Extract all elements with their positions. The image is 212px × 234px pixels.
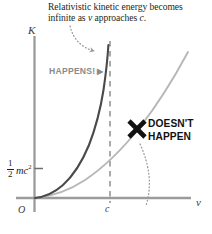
figure-relativistic-kinetic-energy: Relativistic kinetic energy becomes infi…	[0, 0, 212, 234]
figure-caption-line-1: Relativistic kinetic energy becomes	[48, 1, 183, 12]
origin-label: O	[18, 204, 25, 215]
pointer-arrow-to-classical-curve	[140, 144, 149, 206]
annotation-doesnt-line-1: DOESN'T	[148, 118, 194, 131]
caption-text-pre: infinite as	[48, 12, 88, 23]
mc-squared-symbol: mc2	[16, 163, 32, 176]
right-triangle-arrow-icon: ▶	[97, 67, 103, 76]
y-axis-tick-label: 1 2 mc2	[7, 155, 51, 183]
y-axis-label: K	[28, 24, 35, 36]
annotation-doesnt-line-2: HAPPEN	[148, 131, 194, 144]
fraction-denominator: 2	[7, 170, 14, 179]
mc-base: mc	[16, 164, 28, 175]
fraction-numerator: 1	[7, 159, 14, 168]
annotation-happens-label: HAPPENS!	[49, 66, 95, 76]
fraction-one-half: 1 2	[7, 159, 14, 179]
annotation-doesnt-happen: DOESN'T HAPPEN	[148, 118, 194, 143]
annotation-happens: HAPPENS!▶	[49, 66, 104, 76]
x-axis-label: v	[196, 196, 201, 208]
x-mark-icon	[129, 121, 145, 137]
x-axis-tick-label-c: c	[105, 203, 109, 214]
figure-caption-line-2: infinite as v approaches c.	[48, 12, 146, 23]
mc-exponent: 2	[28, 163, 31, 170]
caption-text-end: .	[144, 12, 146, 23]
caption-text-mid: approaches	[92, 12, 139, 23]
pointer-arrow-to-relativistic-curve	[70, 26, 94, 51]
